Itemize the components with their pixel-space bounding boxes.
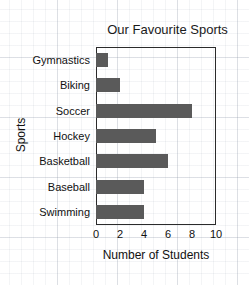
x-tick-2: 2 — [110, 228, 130, 240]
category-label-biking: Biking — [60, 78, 90, 92]
bar-biking — [96, 78, 120, 92]
bar-fill — [96, 205, 144, 219]
x-tick-6: 6 — [158, 228, 178, 240]
category-label-hockey: Hockey — [53, 129, 90, 143]
bar-hockey — [96, 129, 156, 143]
bar-fill — [96, 78, 120, 92]
bar-soccer — [96, 104, 192, 118]
y-axis-title: Sports — [14, 105, 28, 165]
bar-fill — [96, 104, 192, 118]
bar-fill — [96, 154, 168, 168]
bar-baseball — [96, 180, 144, 194]
bar-chart: Our Favourite Sports Sports GymnasticsBi… — [0, 0, 249, 285]
x-tick-10: 10 — [206, 228, 226, 240]
chart-title: Our Favourite Sports — [90, 22, 245, 37]
category-label-gymnastics: Gymnastics — [33, 53, 90, 67]
category-label-soccer: Soccer — [56, 104, 90, 118]
bar-gymnastics — [96, 53, 108, 67]
x-axis-title: Number of Students — [96, 248, 216, 262]
category-label-swimming: Swimming — [39, 205, 90, 219]
x-tick-8: 8 — [182, 228, 202, 240]
bar-fill — [96, 180, 144, 194]
bar-fill — [96, 53, 108, 67]
category-label-basketball: Basketball — [39, 154, 90, 168]
bar-swimming — [96, 205, 144, 219]
x-tick-4: 4 — [134, 228, 154, 240]
category-label-baseball: Baseball — [48, 180, 90, 194]
x-tick-0: 0 — [86, 228, 106, 240]
bar-fill — [96, 129, 156, 143]
bar-basketball — [96, 154, 168, 168]
